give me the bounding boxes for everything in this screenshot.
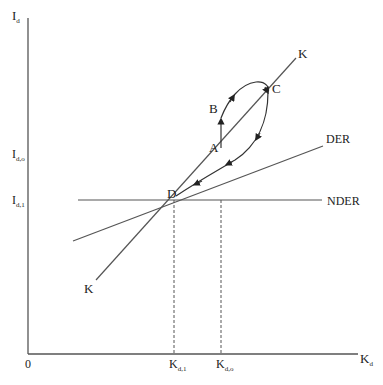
- point-c-label: C: [272, 81, 281, 96]
- diagram-canvas: Id Kd 0 Id,o Id,1 Kd,1 Kd,o K K DER NDER…: [0, 0, 383, 385]
- origin-label: 0: [25, 357, 31, 371]
- y-tick-ido: Id,o: [12, 147, 25, 163]
- point-d-label: D: [167, 186, 176, 201]
- y-axis-label: Id: [12, 8, 20, 25]
- k-line: [96, 58, 296, 280]
- k-line-label-top: K: [298, 46, 308, 61]
- c-to-d-curve: [176, 92, 268, 196]
- point-a-label: A: [209, 140, 219, 155]
- x-tick-kdo: Kd,o: [216, 357, 234, 373]
- point-b-label: B: [209, 101, 218, 116]
- nder-label: NDER: [327, 194, 360, 208]
- der-label: DER: [326, 132, 350, 146]
- k-line-label-bottom: K: [84, 281, 94, 296]
- der-line: [73, 146, 323, 241]
- x-tick-kd1: Kd,1: [169, 357, 187, 373]
- arc-arrow-2: [265, 87, 267, 91]
- b-to-c-arc: [221, 82, 269, 118]
- x-axis-label: Kd: [360, 351, 373, 368]
- y-tick-id1: Id,1: [12, 193, 25, 209]
